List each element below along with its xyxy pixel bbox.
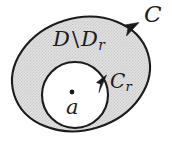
- inner-curve-label-subscript: r: [126, 79, 132, 94]
- inner-curve-label: Cr: [110, 71, 132, 91]
- region-label-D-sub: D: [81, 27, 98, 51]
- center-point-label: a: [66, 97, 79, 118]
- outer-curve-label: C: [144, 3, 162, 26]
- region-label: D\Dr: [53, 29, 105, 50]
- set-minus-icon: \: [70, 27, 81, 51]
- center-point-dot: [70, 90, 75, 95]
- inner-curve-label-C: C: [110, 69, 125, 93]
- contour-integral-diagram: D\Dr C Cr a: [0, 0, 172, 147]
- region-label-subscript: r: [98, 37, 105, 53]
- region-label-D: D: [53, 27, 70, 51]
